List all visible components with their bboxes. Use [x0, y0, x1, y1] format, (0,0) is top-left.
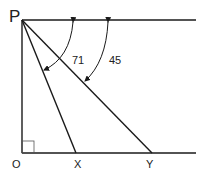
point-label-P: P — [9, 7, 20, 26]
point-label-O: O — [12, 158, 21, 170]
angle-arc-45 — [85, 22, 108, 81]
angle-diagram: P O X Y 71 45 — [0, 0, 204, 179]
angle-label-45: 45 — [109, 54, 121, 66]
line-PX — [22, 20, 76, 153]
point-label-Y: Y — [146, 158, 154, 170]
line-PY — [22, 20, 152, 153]
point-label-X: X — [74, 158, 82, 170]
angle-label-71: 71 — [72, 54, 84, 66]
right-angle-marker — [22, 141, 34, 153]
